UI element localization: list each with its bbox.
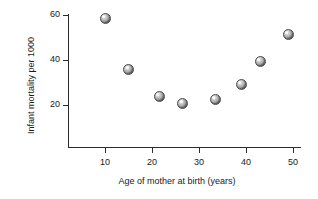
y-tick-mark xyxy=(63,105,68,106)
data-point-marker xyxy=(236,79,247,90)
y-axis-title: Infant mortality per 1000 xyxy=(26,37,36,134)
y-tick-mark xyxy=(63,60,68,61)
data-point-marker xyxy=(255,56,266,67)
x-tick-mark xyxy=(293,148,294,153)
y-axis-line xyxy=(68,14,69,148)
x-axis-line xyxy=(68,147,301,148)
x-tick-label: 10 xyxy=(93,157,117,167)
data-point-marker xyxy=(100,13,111,24)
x-tick-mark xyxy=(246,148,247,153)
x-tick-mark xyxy=(199,148,200,153)
data-point-marker xyxy=(210,94,221,105)
x-tick-label: 20 xyxy=(140,157,164,167)
data-point-marker xyxy=(177,98,188,109)
x-tick-mark xyxy=(105,148,106,153)
scatter-plot-figure: 204060 1020304050 Infant mortality per 1… xyxy=(0,0,318,199)
x-tick-label: 40 xyxy=(234,157,258,167)
x-axis-title: Age of mother at birth (years) xyxy=(0,176,318,186)
y-tick-mark xyxy=(63,15,68,16)
x-tick-label: 30 xyxy=(187,157,211,167)
y-tick-label: 20 xyxy=(38,99,60,109)
y-tick-label: 40 xyxy=(38,54,60,64)
x-tick-label: 50 xyxy=(281,157,305,167)
data-point-marker xyxy=(154,91,165,102)
x-tick-mark xyxy=(152,148,153,153)
y-tick-label: 60 xyxy=(38,9,60,19)
data-point-marker xyxy=(123,64,134,75)
data-point-marker xyxy=(283,29,294,40)
